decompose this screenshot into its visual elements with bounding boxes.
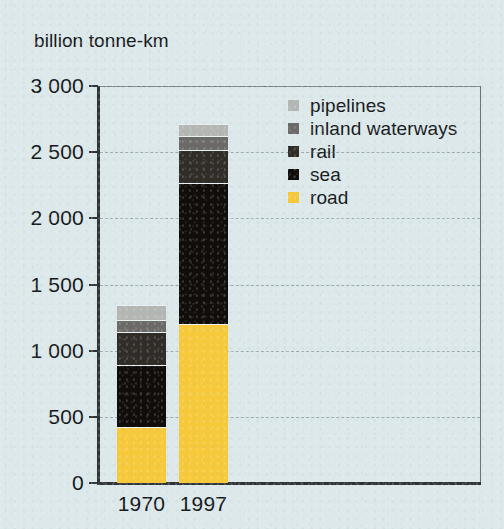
bar-segment-road	[179, 324, 228, 483]
bar-segment-road	[117, 427, 166, 483]
y-axis-tick-label: 0	[0, 471, 84, 495]
y-axis-tick-mark	[89, 85, 98, 87]
y-axis-tick-mark	[89, 350, 98, 352]
bar-1970	[117, 86, 166, 483]
legend-swatch-icon	[288, 146, 299, 157]
legend-label: road	[310, 188, 348, 207]
y-axis-tick-label: 500	[0, 405, 84, 429]
legend-item-rail: rail	[288, 140, 457, 162]
stacked-bar-chart: billion tonne-km 3 0002 5002 0001 5001 0…	[0, 0, 504, 529]
y-axis-tick-mark	[89, 151, 98, 153]
y-axis-tick-mark	[89, 482, 98, 484]
legend-swatch-icon	[288, 192, 299, 203]
bar-segment-sea	[117, 365, 166, 427]
legend: pipelinesinland waterwaysrailsearoad	[288, 94, 457, 209]
y-axis-tick-mark	[89, 284, 98, 286]
legend-item-inland-waterways: inland waterways	[288, 117, 457, 139]
legend-label: sea	[310, 165, 341, 184]
y-axis-tick-mark	[89, 416, 98, 418]
legend-item-road: road	[288, 186, 457, 208]
y-axis-title: billion tonne-km	[34, 30, 169, 52]
legend-label: inland waterways	[310, 119, 457, 138]
bar-segment-sea	[179, 183, 228, 324]
y-axis-tick-mark	[89, 217, 98, 219]
bar-1997	[179, 86, 228, 483]
y-axis-tick-label: 2 000	[0, 206, 84, 230]
y-axis-tick-label: 2 500	[0, 140, 84, 164]
y-axis-tick-label: 3 000	[0, 74, 84, 98]
legend-swatch-icon	[288, 123, 299, 134]
bar-segment-rail	[179, 150, 228, 183]
bar-segment-inland-waterways	[179, 136, 228, 150]
bar-segment-rail	[117, 332, 166, 365]
legend-item-sea: sea	[288, 163, 457, 185]
legend-label: pipelines	[310, 96, 386, 115]
bar-segment-pipelines	[179, 124, 228, 136]
y-axis-tick-label: 1 500	[0, 273, 84, 297]
bar-segment-pipelines	[117, 305, 166, 320]
legend-swatch-icon	[288, 169, 299, 180]
legend-item-pipelines: pipelines	[288, 94, 457, 116]
y-axis-tick-label: 1 000	[0, 339, 84, 363]
legend-swatch-icon	[288, 100, 299, 111]
legend-label: rail	[310, 142, 336, 161]
x-axis-label-1997: 1997	[167, 492, 240, 516]
bar-segment-inland-waterways	[117, 320, 166, 333]
